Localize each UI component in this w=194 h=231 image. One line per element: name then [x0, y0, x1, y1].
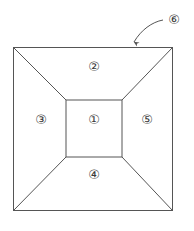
- inner-square-group: [66, 100, 122, 157]
- callout-leader-group: [134, 20, 163, 42]
- callout-leader-line: [134, 20, 163, 42]
- label-region-3: ③: [33, 112, 49, 128]
- figure-canvas: ① ② ③ ④ ⑤ ⑥: [0, 0, 194, 231]
- label-region-5: ⑤: [139, 112, 155, 128]
- diagonal-top-right: [122, 48, 173, 101]
- label-region-1: ①: [86, 112, 102, 128]
- label-region-2: ②: [86, 59, 102, 75]
- label-region-4: ④: [86, 167, 102, 183]
- inner-square: [66, 100, 122, 157]
- diagonal-bottom-right: [122, 157, 173, 211]
- diagonal-top-left: [14, 48, 67, 101]
- label-callout-6: ⑥: [166, 12, 182, 28]
- diagonal-bottom-left: [14, 157, 67, 211]
